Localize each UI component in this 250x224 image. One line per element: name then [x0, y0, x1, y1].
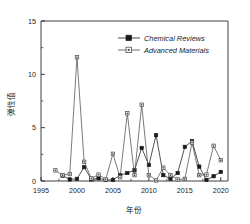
data-point-marker-dot: [206, 174, 208, 176]
line-chart: 051015 199520002005201020152020 Chemical…: [0, 0, 250, 224]
x-tick-label: 2000: [69, 186, 85, 195]
data-point-marker-dot: [76, 56, 78, 58]
data-point-marker: [140, 146, 143, 149]
data-point-marker-dot: [55, 169, 57, 171]
data-point-marker: [183, 145, 186, 148]
data-point-marker: [198, 165, 201, 168]
data-point-marker-dot: [198, 174, 200, 176]
y-tick-label: 15: [28, 17, 36, 26]
data-point-marker: [154, 133, 157, 136]
data-point-marker: [205, 178, 208, 181]
data-point-marker-dot: [90, 177, 92, 179]
data-point-marker-dot: [119, 176, 121, 178]
chart-container: 051015 199520002005201020152020 Chemical…: [0, 0, 250, 224]
legend-label-chemical-reviews: Chemical Reviews: [144, 34, 205, 43]
y-tick-label: 0: [32, 177, 36, 186]
data-point-marker-dot: [184, 178, 186, 180]
data-point-marker-dot: [62, 174, 64, 176]
data-point-marker: [212, 175, 215, 178]
data-point-marker-dot: [105, 179, 107, 181]
x-axis-title: 年份: [126, 205, 142, 215]
data-point-marker-dot: [213, 145, 215, 147]
x-tick-label: 2015: [177, 186, 193, 195]
data-point-marker-dot: [112, 153, 114, 155]
data-point-marker: [82, 165, 85, 168]
data-point-marker: [97, 177, 100, 180]
data-point-marker: [162, 173, 165, 176]
legend-marker-filled-square: [126, 35, 131, 40]
data-point-marker-dot: [148, 174, 150, 176]
data-point-marker-dot: [220, 159, 222, 161]
data-point-marker-dot: [98, 174, 100, 176]
data-point-marker-dot: [134, 174, 136, 176]
data-point-marker-dot: [170, 174, 172, 176]
data-point-marker-dot: [162, 167, 164, 169]
legend-marker-open-square-dot: [128, 49, 130, 51]
data-point-marker: [111, 178, 114, 181]
x-tick-label: 2020: [213, 186, 229, 195]
data-point-marker-dot: [69, 173, 71, 175]
y-tick-label: 5: [32, 123, 36, 132]
x-tick-label: 2010: [141, 186, 157, 195]
data-point-marker-dot: [191, 142, 193, 144]
data-point-marker-dot: [83, 161, 85, 163]
legend-label-advanced-materials: Advanced Materials: [143, 46, 209, 55]
data-point-marker: [126, 171, 129, 174]
data-point-marker-dot: [177, 179, 179, 181]
data-point-marker-dot: [155, 180, 157, 182]
data-point-marker-dot: [141, 104, 143, 106]
x-tick-label: 1995: [33, 186, 49, 195]
y-axis-title: 弹性值: [6, 92, 16, 116]
x-tick-label: 2005: [105, 186, 121, 195]
data-point-marker-dot: [126, 112, 128, 114]
data-point-marker: [219, 170, 222, 173]
data-point-marker: [75, 177, 78, 180]
data-point-marker: [68, 178, 71, 181]
data-point-marker: [169, 177, 172, 180]
data-point-marker: [176, 171, 179, 174]
y-tick-label: 10: [28, 70, 36, 79]
